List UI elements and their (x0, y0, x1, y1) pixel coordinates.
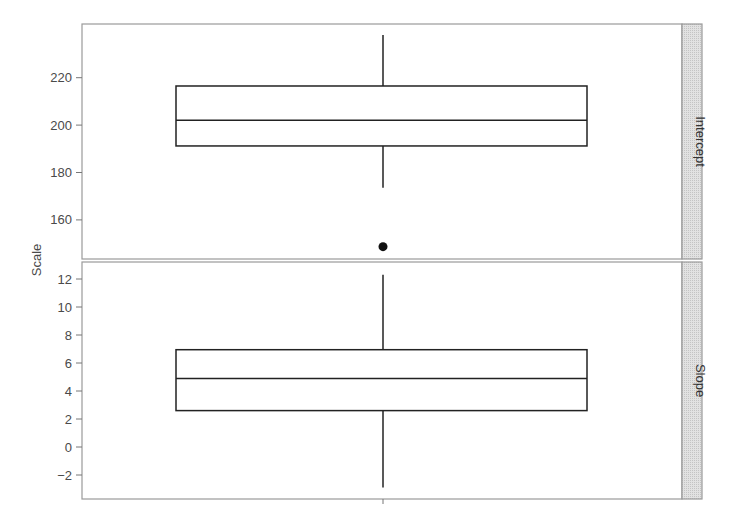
y-tick-label: 200 (50, 118, 72, 133)
panels-layer: Intercept160180200220Slope−2024681012 (50, 24, 708, 504)
panel-intercept: Intercept160180200220 (50, 24, 708, 259)
chart-canvas: Intercept160180200220Slope−2024681012 Sc… (0, 0, 738, 530)
y-axis-label: Scale (29, 244, 44, 277)
y-tick-label: 220 (50, 70, 72, 85)
y-tick-label: 10 (58, 300, 72, 315)
y-tick-label: 12 (58, 272, 72, 287)
y-tick-label: 160 (50, 212, 72, 227)
outlier-point (379, 242, 388, 251)
y-tick-label: 8 (65, 328, 72, 343)
y-tick-label: 4 (65, 384, 72, 399)
panel-slope: Slope−2024681012 (57, 262, 708, 504)
strip-label: Slope (693, 364, 708, 397)
y-tick-label: 6 (65, 356, 72, 371)
y-tick-label: 0 (65, 440, 72, 455)
y-tick-label: 180 (50, 165, 72, 180)
panel-frame (82, 24, 682, 259)
y-tick-label: −2 (57, 468, 72, 483)
faceted-boxplot-chart: Intercept160180200220Slope−2024681012 Sc… (0, 0, 738, 530)
y-tick-label: 2 (65, 412, 72, 427)
panel-frame (82, 262, 682, 499)
strip-label: Intercept (693, 116, 708, 167)
